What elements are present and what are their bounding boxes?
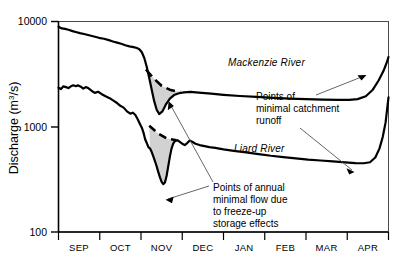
x-tick-label-apr: APR (358, 242, 378, 253)
series-label-mackenzie-river: Mackenzie River (228, 57, 305, 68)
annotation-runoff-line-3: runoff (256, 115, 282, 126)
x-tick-label-mar: MAR (316, 242, 338, 253)
x-tick-label-nov: NOV (151, 242, 173, 253)
y-tick-label-1000: 1000 (24, 121, 48, 133)
discharge-chart-figure: 10000 1000 100 Discharge (m3/s) SEP OCT … (0, 0, 411, 261)
y-tick-label-100: 100 (29, 226, 47, 238)
x-tick-label-sep: SEP (69, 242, 89, 253)
annotation-freezeup-line-3: to freeze-up (213, 206, 267, 217)
y-tick-label-10000: 10000 (18, 15, 47, 27)
x-tick-label-feb: FEB (276, 242, 295, 253)
annotation-freezeup-line-4: storage effects (213, 218, 278, 229)
chart-svg: 10000 1000 100 Discharge (m3/s) SEP OCT … (0, 0, 411, 261)
x-tick-label-jan: JAN (235, 242, 254, 253)
annotation-freezeup-line-1: Points of annual (213, 182, 285, 193)
svg-text:Discharge (m3/s): Discharge (m3/s) (7, 82, 21, 175)
chart-background (0, 0, 411, 261)
y-axis-title: Discharge (m3/s) (7, 82, 21, 175)
x-tick-label-oct: OCT (110, 242, 131, 253)
annotation-runoff-line-2: minimal catchment (256, 103, 340, 114)
annotation-freezeup-line-2: minimal flow due (213, 194, 288, 205)
y-axis-title-main: Discharge (m (7, 100, 21, 174)
y-axis-title-tail: /s) (7, 82, 21, 96)
series-label-liard-river: Liard River (234, 143, 285, 154)
annotation-runoff-line-1: Points of (256, 91, 295, 102)
x-tick-label-dec: DEC (192, 242, 213, 253)
